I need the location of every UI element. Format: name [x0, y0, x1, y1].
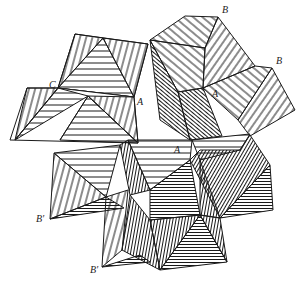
label-a-left: A: [137, 97, 143, 107]
polyhedra-diagram: B B C A A A B′ B′: [0, 0, 305, 285]
label-b-top: B: [222, 5, 228, 15]
octahedron-left-middle: [10, 88, 138, 143]
label-b-right: B: [276, 56, 282, 66]
label-b-prime-upper: B′: [36, 214, 44, 224]
label-a-right: A: [212, 89, 218, 99]
octahedra-figure: [0, 0, 305, 285]
octahedron-center: [120, 134, 273, 220]
octahedron-top-left: [58, 34, 148, 97]
label-b-prime-lower: B′: [90, 265, 98, 275]
label-c: C: [49, 80, 56, 90]
octahedron-top-right: [150, 16, 295, 140]
label-a-center: A: [174, 145, 180, 155]
